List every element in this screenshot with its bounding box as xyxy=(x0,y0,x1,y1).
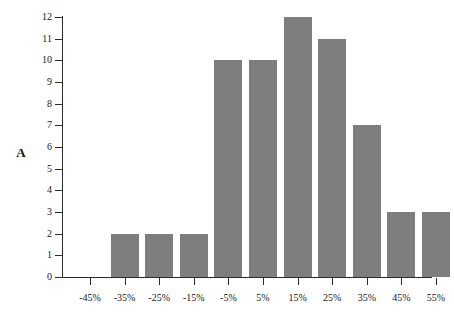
y-axis-tick-label-text: 8 xyxy=(26,99,52,109)
y-axis-tick-label-text: 12 xyxy=(26,12,52,22)
x-axis-tick xyxy=(367,278,368,285)
y-axis-tick-label-text: 0 xyxy=(26,272,52,282)
bar xyxy=(180,234,208,277)
y-axis-tick xyxy=(55,104,62,105)
y-axis-tick xyxy=(55,190,62,191)
y-axis-tick xyxy=(55,147,62,148)
bar xyxy=(214,60,242,277)
y-axis-tick-label: 5 xyxy=(12,164,52,174)
x-axis-tick-label: 55% xyxy=(413,292,454,304)
bar xyxy=(318,39,346,277)
y-axis-tick-label-text: 10 xyxy=(26,55,52,65)
y-axis-tick xyxy=(55,125,62,126)
y-axis-tick-label: 7 xyxy=(12,120,52,130)
y-axis-tick-label: 4 xyxy=(12,185,52,195)
y-axis-tick-label-text: 1 xyxy=(26,250,52,260)
x-axis-tick xyxy=(125,278,126,285)
y-axis-tick-label: 0 xyxy=(12,272,52,282)
y-axis-tick-label: 12 xyxy=(12,12,52,22)
y-axis-tick-label-text: 2 xyxy=(26,229,52,239)
x-axis-tick xyxy=(436,278,437,285)
y-axis-tick-label-text: 5 xyxy=(26,164,52,174)
y-axis-tick-label-text: 4 xyxy=(26,185,52,195)
bar xyxy=(249,60,277,277)
y-axis-tick-label: 2 xyxy=(12,229,52,239)
bar xyxy=(353,125,381,277)
y-axis-tick-label: 9 xyxy=(12,77,52,87)
x-axis-tick xyxy=(401,278,402,285)
bar xyxy=(422,212,450,277)
y-axis-tick-label-text: 6 xyxy=(26,142,52,152)
y-axis-tick-label-text: 9 xyxy=(26,77,52,87)
y-axis-tick xyxy=(55,17,62,18)
y-axis-tick-label-text: 11 xyxy=(26,34,52,44)
bar xyxy=(145,234,173,277)
y-axis-tick xyxy=(55,212,62,213)
y-axis-tick-label: 10 xyxy=(12,55,52,65)
y-axis-tick xyxy=(55,169,62,170)
x-axis-line xyxy=(62,277,432,278)
x-axis-tick xyxy=(298,278,299,285)
y-axis-tick-label: 6 xyxy=(12,142,52,152)
x-axis-tick xyxy=(194,278,195,285)
x-axis-tick xyxy=(228,278,229,285)
y-axis-tick-label-text: 3 xyxy=(26,207,52,217)
y-axis-tick-label: 8 xyxy=(12,99,52,109)
y-axis-line xyxy=(62,16,63,278)
y-axis-tick-label: 3 xyxy=(12,207,52,217)
x-axis-tick xyxy=(332,278,333,285)
y-axis-tick xyxy=(55,234,62,235)
y-axis-tick-label-text: 7 xyxy=(26,120,52,130)
bar xyxy=(284,17,312,277)
bar xyxy=(111,234,139,277)
y-axis-tick xyxy=(55,39,62,40)
y-axis-tick xyxy=(55,255,62,256)
y-axis-tick xyxy=(55,60,62,61)
y-axis-tick-label: 11 xyxy=(12,34,52,44)
y-axis-tick xyxy=(55,82,62,83)
bar xyxy=(387,212,415,277)
x-axis-tick xyxy=(90,278,91,285)
y-axis-tick xyxy=(55,277,62,278)
x-axis-tick xyxy=(159,278,160,285)
x-axis-tick xyxy=(263,278,264,285)
y-axis-tick-label: 1 xyxy=(12,250,52,260)
